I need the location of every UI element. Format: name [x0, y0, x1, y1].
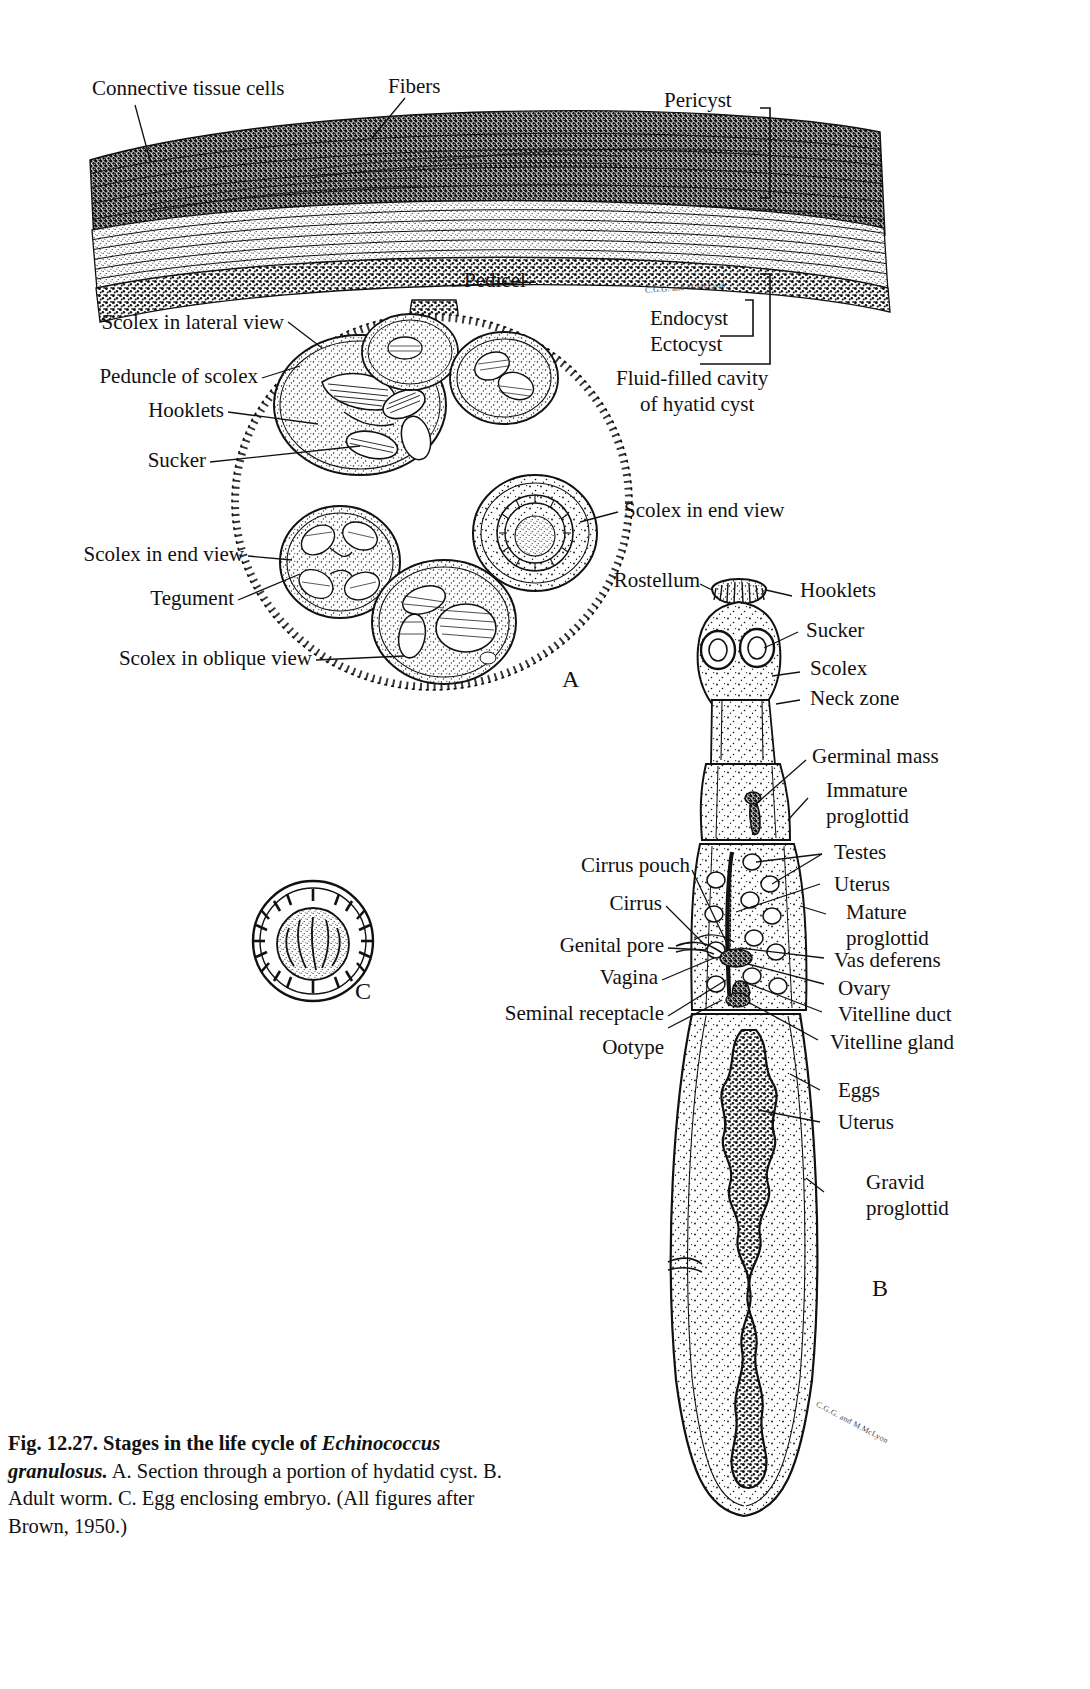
scolex-end-view-top [362, 314, 458, 390]
label-cirrus: Cirrus [0, 891, 662, 916]
figure-caption: Fig. 12.27. Stages in the life cycle of … [8, 1430, 508, 1541]
label-uterus-mature: Uterus [834, 872, 890, 897]
label-vitelline-duct: Vitelline duct [838, 1002, 952, 1027]
worm-mature-proglottid [676, 844, 807, 1010]
label-ootype: Ootype [0, 1035, 664, 1060]
label-hooklets-panel-a: Hooklets [0, 398, 224, 423]
label-fibers: Fibers [388, 74, 441, 99]
label-neck-zone: Neck zone [810, 686, 899, 711]
label-vitelline-gland: Vitelline gland [830, 1030, 954, 1055]
label-uterus-gravid: Uterus [838, 1110, 894, 1135]
worm-rostellum [712, 579, 766, 604]
figure-caption-c: C. Egg enclosing embryo. (All figures af… [118, 1487, 474, 1509]
label-testes: Testes [834, 840, 886, 865]
label-mature: Mature [846, 900, 907, 925]
adult-worm [668, 579, 817, 1516]
label-ectocyst: Ectocyst [650, 332, 722, 357]
label-germinal-mass: Germinal mass [812, 744, 939, 769]
label-scolex-end-view-right: Scolex in end view [624, 498, 784, 523]
panel-letter-a: A [562, 666, 579, 693]
label-immature: Immature [826, 778, 908, 803]
worm-neck-zone [711, 700, 775, 764]
label-vas-deferens: Vas deferens [834, 948, 941, 973]
label-scolex-lateral-view: Scolex in lateral view [0, 310, 284, 335]
label-cirrus-pouch: Cirrus pouch [0, 853, 690, 878]
label-fluid-filled-cavity: Fluid-filled cavity [616, 366, 768, 391]
worm-gravid-proglottid [668, 1014, 817, 1516]
label-endocyst: Endocyst [650, 306, 728, 331]
label-immature-proglottid: proglottid [826, 804, 909, 829]
worm-immature-proglottid [701, 764, 790, 840]
label-of-hyatid-cyst: of hyatid cyst [640, 392, 754, 417]
figure-page: Connective tissue cells Fibers Pericyst … [0, 0, 1090, 1689]
figure-caption-source: Brown, 1950.) [8, 1515, 127, 1537]
label-sucker-panel-a: Sucker [0, 448, 206, 473]
label-eggs: Eggs [838, 1078, 880, 1103]
label-peduncle-of-scolex: Peduncle of scolex [0, 364, 258, 389]
brood-capsule [232, 314, 632, 690]
label-hooklets-panel-b: Hooklets [800, 578, 876, 603]
label-sucker-panel-b: Sucker [806, 618, 864, 643]
label-scolex-oblique-view: Scolex in oblique view [0, 646, 312, 671]
panel-letter-b: B [872, 1275, 888, 1302]
label-gravid: Gravid [866, 1170, 924, 1195]
figure-caption-a: A. Section through a portion of hydatid … [112, 1460, 478, 1482]
figure-number: Fig. 12.27. [8, 1432, 98, 1454]
label-vagina: Vagina [0, 965, 658, 990]
label-genital-pore: Genital pore [0, 933, 664, 958]
figure-title: Stages in the life cycle of [103, 1432, 317, 1454]
label-ovary: Ovary [838, 976, 890, 1001]
label-pedicel: Pedicel [464, 268, 526, 293]
scolex-end-view-upper-right [450, 332, 558, 424]
worm-scolex [698, 602, 781, 704]
label-scolex-end-view-left: Scolex in end view [0, 542, 244, 567]
label-scolex-panel-b: Scolex [810, 656, 867, 681]
label-rostellum: Rostellum [0, 568, 700, 593]
label-gravid-proglottid: proglottid [866, 1196, 949, 1221]
panel-letter-c: C [355, 978, 371, 1005]
label-connective-tissue-cells: Connective tissue cells [92, 76, 284, 101]
label-seminal-receptacle: Seminal receptacle [0, 1001, 664, 1026]
label-pericyst: Pericyst [664, 88, 732, 113]
